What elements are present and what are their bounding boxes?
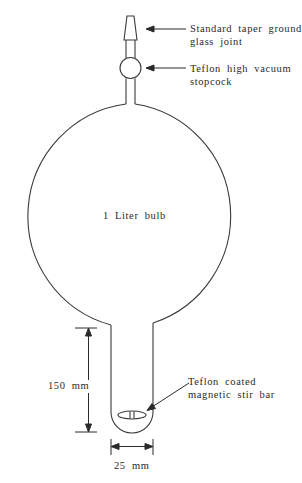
stopcock-label: Teflon high vacuum stopcock xyxy=(190,63,291,88)
stopcock xyxy=(120,58,141,79)
bulb-label: 1 Liter bulb xyxy=(103,210,166,223)
stopcock-label-line1: Teflon high vacuum xyxy=(190,63,291,76)
width-dimension-label: 25 mm xyxy=(114,460,149,473)
joint-label-line1: Standard taper ground xyxy=(190,23,302,36)
stirbar-label: Teflon coated magnetic stir bar xyxy=(188,376,275,401)
stir-bar xyxy=(118,411,146,419)
ground-glass-joint xyxy=(124,16,137,40)
stirbar-arrow xyxy=(152,383,189,407)
stirbar-label-line2: magnetic stir bar xyxy=(188,389,275,402)
height-dimension-label: 150 mm xyxy=(48,380,89,393)
stopcock-label-line2: stopcock xyxy=(190,76,291,89)
tube xyxy=(111,323,153,433)
joint-label: Standard taper ground glass joint xyxy=(190,23,302,48)
stirbar-label-line1: Teflon coated xyxy=(188,376,275,389)
joint-label-line2: glass joint xyxy=(190,36,302,49)
